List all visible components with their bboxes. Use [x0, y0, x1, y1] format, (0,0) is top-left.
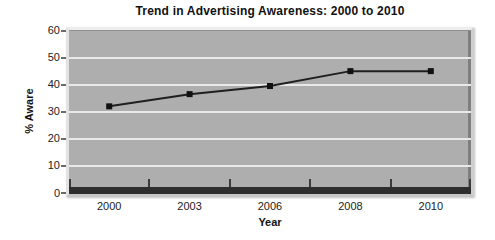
series-plot [69, 30, 471, 194]
x-axis-title: Year [66, 216, 474, 228]
y-tick-label: 0 [18, 187, 60, 200]
data-point-marker [267, 83, 273, 89]
data-point-marker [347, 68, 353, 74]
y-tick-label: 60 [18, 24, 60, 37]
data-point-marker [428, 68, 434, 74]
y-tick-mark [61, 192, 66, 194]
x-tick-label: 2003 [160, 200, 220, 212]
y-tick-label: 40 [18, 78, 60, 91]
data-point-marker [106, 103, 112, 109]
y-tick-mark [61, 30, 66, 32]
y-tick-mark [61, 111, 66, 113]
chart-title: Trend in Advertising Awareness: 2000 to … [66, 4, 474, 18]
y-tick-mark [61, 57, 66, 59]
y-tick-label: 50 [18, 51, 60, 64]
x-tick-label: 2010 [401, 200, 461, 212]
y-tick-label: 20 [18, 132, 60, 145]
y-tick-mark [61, 84, 66, 86]
y-tick-mark [61, 165, 66, 167]
advertising-awareness-chart: Trend in Advertising Awareness: 2000 to … [0, 0, 495, 240]
x-tick-label: 2008 [320, 200, 380, 212]
x-tick-label: 2006 [240, 200, 300, 212]
x-tick-label: 2000 [79, 200, 139, 212]
y-tick-label: 10 [18, 159, 60, 172]
plot-frame [66, 27, 474, 197]
data-point-marker [187, 91, 193, 97]
y-tick-label: 30 [18, 105, 60, 118]
plot-area [69, 30, 471, 194]
y-tick-mark [61, 138, 66, 140]
